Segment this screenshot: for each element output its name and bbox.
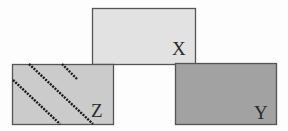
box-z-label: Z bbox=[91, 100, 103, 121]
box-diagram: X Z Y bbox=[0, 0, 288, 131]
box-z: Z bbox=[13, 64, 114, 125]
box-x-label: X bbox=[172, 38, 186, 59]
box-y: Y bbox=[176, 64, 277, 125]
diagram-canvas: X Z Y bbox=[0, 0, 288, 131]
box-y-label: Y bbox=[254, 102, 268, 123]
box-x: X bbox=[93, 9, 196, 65]
